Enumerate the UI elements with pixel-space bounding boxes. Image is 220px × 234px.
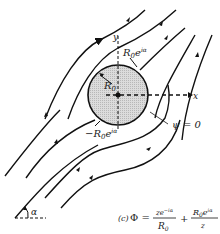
origin-dot — [116, 93, 121, 98]
streamline-10 — [15, 145, 98, 218]
bottom-point-pointer — [95, 121, 100, 126]
top-point-label: R0eiα — [122, 46, 147, 60]
term2-numerator: R0eiα — [192, 207, 213, 218]
term1-denominator: R0 — [157, 221, 169, 232]
x-axis-label: x — [193, 91, 198, 101]
equation-lhs: Φ = — [130, 212, 150, 223]
arrow-icon — [146, 147, 151, 151]
streamline-4 — [155, 35, 195, 118]
angle-label: α — [31, 207, 37, 217]
arrow-icon — [76, 167, 80, 172]
y-axis-label: y — [112, 32, 119, 42]
arrow-icon — [126, 17, 130, 22]
caption-prefix: (c) — [118, 214, 129, 223]
streamline-6 — [5, 110, 60, 176]
flow-around-cylinder-diagram: y x R0 R0eiα −R0eiα ψ = 0 α (c) Φ = ze−i… — [0, 0, 220, 234]
arrow-icon — [54, 139, 58, 144]
plus-sign: + — [180, 213, 188, 224]
term1-numerator: ze−iα — [155, 207, 174, 217]
arrow-icon — [195, 52, 199, 57]
equation: (c) Φ = ze−iα R0 + R0eiα z — [118, 207, 218, 232]
term2-denominator: z — [200, 222, 205, 230]
streamline-psi-label: ψ = 0 — [172, 119, 202, 130]
bottom-point-label: −R0eiα — [85, 127, 117, 141]
arrow-icon — [89, 175, 93, 180]
arrow-icon — [164, 35, 168, 40]
